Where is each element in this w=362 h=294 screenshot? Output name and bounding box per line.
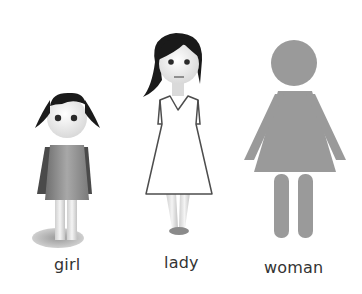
woman-leg-left <box>274 174 289 238</box>
lady-eye-left <box>168 59 174 65</box>
girl-dress <box>45 145 89 200</box>
lady-label: lady <box>164 253 199 272</box>
lady-dress <box>146 96 212 194</box>
lady-shoes <box>169 227 189 235</box>
lady-leg-left <box>166 193 178 228</box>
girl-label: girl <box>54 255 80 274</box>
girl-eye-left <box>55 115 61 121</box>
woman-leg-right <box>298 174 313 238</box>
girl-hair-left <box>35 100 50 128</box>
illustration-canvas <box>0 0 362 294</box>
girl-eye-right <box>71 115 77 121</box>
girl-leg-right <box>67 196 77 240</box>
lady-figure <box>143 33 212 235</box>
girl-leg-left <box>55 196 65 240</box>
girl-figure <box>32 93 100 248</box>
lady-leg-right <box>179 193 190 228</box>
woman-head <box>271 40 317 86</box>
woman-pictogram <box>244 40 346 238</box>
woman-label: woman <box>264 258 323 277</box>
girl-hair-right <box>85 100 100 128</box>
lady-eye-right <box>184 59 190 65</box>
